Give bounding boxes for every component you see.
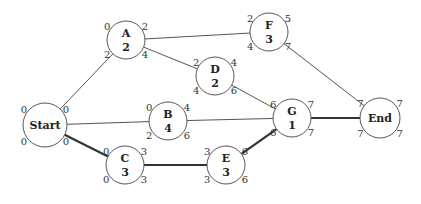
node-start-ls-label: 0 <box>21 136 27 147</box>
edge-start-to-a <box>60 54 113 109</box>
node-a-ef-label: 2 <box>142 21 148 32</box>
node-name: Start <box>29 119 61 132</box>
node-name: F <box>265 19 273 32</box>
edge-start-to-b <box>67 122 149 125</box>
node-duration: 2 <box>211 77 219 90</box>
node-start-ef-label: 0 <box>63 104 69 115</box>
node-d-ls-label: 4 <box>193 85 199 96</box>
node-end-ls-label: 7 <box>357 128 363 139</box>
node-duration: 3 <box>222 166 230 179</box>
edge-a-to-f <box>145 33 250 39</box>
edge-b-to-g <box>187 118 273 120</box>
node-b: B4 <box>149 102 187 140</box>
node-duration: 3 <box>121 166 129 179</box>
nodes-layer: StartA2B4C3D2E3F3G1End <box>23 13 400 184</box>
node-g-lf-label: 7 <box>308 127 314 138</box>
node-d-ef-label: 4 <box>231 57 237 68</box>
node-a-ls-label: 2 <box>104 49 110 60</box>
node-duration: 3 <box>265 33 273 46</box>
node-name: E <box>222 152 230 165</box>
node-f-es-label: 2 <box>247 13 253 24</box>
node-d-lf-label: 6 <box>231 85 237 96</box>
node-duration: 1 <box>288 119 296 132</box>
node-c-ef-label: 3 <box>141 146 147 157</box>
node-end-es-label: 7 <box>357 98 363 109</box>
node-b-es-label: 0 <box>146 102 152 113</box>
node-b-ef-label: 4 <box>184 102 190 113</box>
node-end-lf-label: 7 <box>396 128 402 139</box>
node-g: G1 <box>273 99 311 137</box>
node-e: E3 <box>207 146 245 184</box>
node-g-ef-label: 7 <box>308 99 314 110</box>
node-e-ls-label: 3 <box>204 174 210 185</box>
node-name: End <box>368 112 392 125</box>
node-c-lf-label: 3 <box>141 174 147 185</box>
node-d-es-label: 2 <box>193 57 199 68</box>
node-e-es-label: 3 <box>204 146 210 157</box>
node-name: C <box>121 152 130 165</box>
node-c-es-label: 0 <box>103 146 109 157</box>
node-c-ls-label: 0 <box>103 174 109 185</box>
node-end-ef-label: 7 <box>396 98 402 109</box>
node-name: G <box>287 105 296 118</box>
node-f: F3 <box>250 13 288 51</box>
edge-start-to-c <box>65 135 108 157</box>
edge-a-to-d <box>144 47 198 69</box>
node-duration: 4 <box>164 122 172 135</box>
node-e-ef-label: 6 <box>242 146 248 157</box>
node-b-lf-label: 6 <box>184 130 190 141</box>
node-g-es-label: 6 <box>270 99 276 110</box>
network-diagram: StartA2B4C3D2E3F3G1End 00000224042603032… <box>0 0 421 204</box>
node-e-lf-label: 6 <box>242 174 248 185</box>
node-duration: 2 <box>122 41 130 54</box>
node-g-ls-label: 6 <box>270 127 276 138</box>
node-c: C3 <box>106 146 144 184</box>
node-name: D <box>210 63 220 76</box>
node-start: Start <box>23 103 67 147</box>
node-start-lf-label: 0 <box>63 136 69 147</box>
node-start-es-label: 0 <box>21 104 27 115</box>
node-end: End <box>360 98 400 138</box>
node-d: D2 <box>196 57 234 95</box>
node-name: B <box>163 108 172 121</box>
node-a: A2 <box>107 21 145 59</box>
node-f-ls-label: 4 <box>247 41 253 52</box>
node-a-lf-label: 4 <box>142 49 148 60</box>
node-a-es-label: 0 <box>104 21 110 32</box>
edge-f-to-end <box>284 44 364 106</box>
edge-d-to-g <box>232 85 276 109</box>
node-f-lf-label: 7 <box>285 41 291 52</box>
node-b-ls-label: 2 <box>146 130 152 141</box>
node-name: A <box>121 27 131 40</box>
node-f-ef-label: 5 <box>285 13 291 24</box>
